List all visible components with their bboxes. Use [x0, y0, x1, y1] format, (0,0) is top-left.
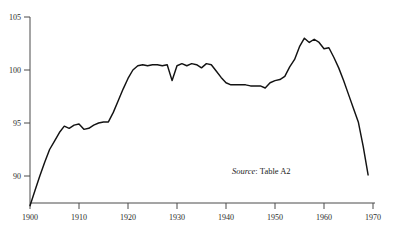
- x-tick-label-1920: 1920: [120, 213, 136, 222]
- source-note-value: Table A2: [260, 166, 291, 176]
- x-axis: 1900 1910 1920 1930 1940 1950 1960 1970: [22, 203, 381, 222]
- chart-figure: 105 100 95 90 1900 1910 1920 1930 1940 1…: [0, 0, 393, 233]
- x-tick-label-1900: 1900: [22, 213, 38, 222]
- source-note-label: Source: [232, 166, 255, 176]
- y-axis: 105 100 95 90: [9, 13, 30, 203]
- y-tick-label-100: 100: [9, 66, 21, 75]
- x-tick-label-1910: 1910: [71, 213, 87, 222]
- x-tick-label-1960: 1960: [316, 213, 332, 222]
- y-tick-label-95: 95: [13, 119, 21, 128]
- chart-plot-area: 105 100 95 90 1900 1910 1920 1930 1940 1…: [0, 0, 393, 233]
- source-note-separator: :: [255, 166, 257, 176]
- x-tick-label-1930: 1930: [169, 213, 185, 222]
- data-series-line: [30, 38, 368, 205]
- x-tick-label-1940: 1940: [218, 213, 234, 222]
- source-note: Source: Table A2: [232, 166, 291, 176]
- x-tick-label-1950: 1950: [267, 213, 283, 222]
- y-tick-label-105: 105: [9, 13, 21, 22]
- x-tick-label-1970: 1970: [365, 213, 381, 222]
- y-tick-label-90: 90: [13, 172, 21, 181]
